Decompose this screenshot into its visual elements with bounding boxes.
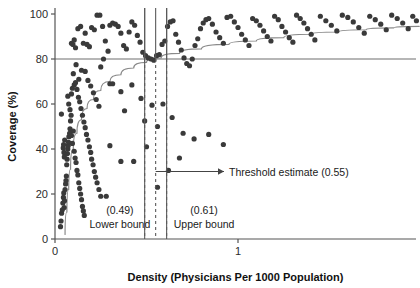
data-point: [187, 63, 192, 68]
data-point: [283, 29, 288, 34]
data-point: [384, 27, 389, 32]
data-point: [77, 186, 82, 191]
data-point: [80, 204, 85, 209]
data-point: [88, 150, 93, 155]
data-point: [165, 24, 170, 29]
data-point: [373, 17, 378, 22]
x-tick-label: 0: [52, 245, 58, 257]
data-point: [58, 218, 63, 223]
data-point: [91, 90, 96, 95]
data-point: [179, 47, 184, 52]
data-point: [190, 56, 195, 61]
y-tick-label: 40: [36, 143, 48, 155]
data-point: [334, 28, 339, 33]
data-point: [76, 180, 81, 185]
data-point: [406, 26, 411, 31]
data-point: [116, 24, 121, 29]
data-point: [88, 83, 93, 88]
x-tick-label: 1: [235, 245, 241, 257]
data-point: [70, 141, 75, 146]
data-point: [92, 169, 97, 174]
data-point: [69, 91, 74, 96]
y-axis-title: Coverage (%): [6, 91, 18, 162]
data-point: [195, 36, 200, 41]
data-point: [138, 96, 143, 101]
data-point: [362, 31, 367, 36]
data-point: [290, 40, 295, 45]
data-point: [410, 14, 415, 19]
data-point: [318, 14, 323, 19]
data-point: [170, 115, 175, 120]
data-point: [367, 14, 372, 19]
data-point: [261, 28, 266, 33]
data-point: [96, 187, 101, 192]
data-point: [265, 34, 270, 39]
data-point: [72, 37, 77, 42]
x-axis-title: Density (Physicians Per 1000 Population): [128, 271, 344, 283]
data-point: [127, 29, 132, 34]
data-point: [206, 132, 211, 137]
data-point: [101, 56, 106, 61]
data-point: [98, 64, 103, 69]
data-point: [61, 142, 66, 147]
data-point: [87, 44, 92, 49]
chart-figure: 02040608010001Density (Physicians Per 10…: [0, 0, 420, 288]
data-point: [192, 43, 197, 48]
data-point: [75, 172, 80, 177]
data-point: [69, 113, 74, 118]
data-point: [135, 33, 140, 38]
data-point: [97, 13, 102, 18]
data-point: [64, 173, 69, 178]
data-point: [80, 113, 85, 118]
data-point: [177, 155, 182, 160]
data-point: [246, 43, 251, 48]
data-point: [83, 69, 88, 74]
data-point: [122, 108, 127, 113]
data-point: [74, 87, 79, 92]
data-point: [73, 160, 78, 165]
threshold-estimate-label: Threshold estimate (0.55): [229, 166, 349, 178]
y-tick-label: 60: [36, 98, 48, 110]
data-point: [287, 35, 292, 40]
data-point: [356, 25, 361, 30]
data-point: [64, 162, 69, 167]
data-point: [378, 22, 383, 27]
data-point: [206, 16, 211, 21]
data-point: [254, 18, 259, 23]
data-point: [414, 18, 419, 23]
data-point: [228, 14, 233, 19]
data-point: [105, 49, 110, 54]
data-point: [157, 52, 162, 57]
data-point: [63, 178, 68, 183]
data-point: [176, 40, 181, 45]
data-point: [181, 55, 186, 60]
upper-bound-label: Upper bound: [174, 218, 235, 230]
data-point: [129, 82, 134, 87]
data-point: [312, 37, 317, 42]
data-point: [103, 38, 108, 43]
y-tick-label: 100: [30, 8, 48, 20]
data-point: [400, 20, 405, 25]
data-point: [98, 194, 103, 199]
data-point: [87, 144, 92, 149]
data-point: [94, 180, 99, 185]
data-point: [124, 46, 129, 51]
data-point: [85, 78, 90, 83]
data-point: [62, 205, 67, 210]
y-tick-label: 0: [42, 233, 48, 245]
data-point: [107, 143, 112, 148]
y-tick-label: 80: [36, 53, 48, 65]
data-point: [90, 162, 95, 167]
data-point: [58, 224, 63, 229]
data-point: [239, 32, 244, 37]
data-point: [268, 38, 273, 43]
data-point: [149, 103, 154, 108]
data-point: [62, 137, 67, 142]
data-point: [72, 149, 77, 154]
data-point: [110, 81, 115, 86]
data-point: [160, 101, 165, 106]
data-point: [77, 99, 82, 104]
data-point: [298, 16, 303, 21]
data-point: [118, 31, 123, 36]
data-point: [78, 191, 83, 196]
